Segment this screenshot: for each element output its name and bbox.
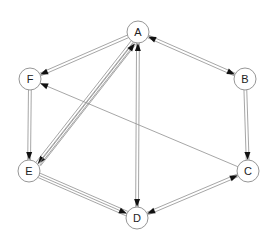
- edge-line: [39, 175, 127, 213]
- edge-f-e[interactable]: [26, 90, 32, 160]
- edge-a-b[interactable]: [148, 35, 236, 76]
- edge-line: [31, 90, 32, 160]
- graph-diagram: A B C D E F: [0, 0, 275, 240]
- arrowhead-end: [26, 152, 32, 160]
- arrowhead-start: [135, 43, 141, 51]
- edge-line: [244, 90, 246, 160]
- edge-e-d[interactable]: [38, 173, 128, 216]
- edge-b-c[interactable]: [244, 90, 250, 160]
- arrowhead-end: [134, 199, 140, 207]
- node-f-label: F: [27, 73, 34, 85]
- edge-line: [136, 43, 137, 207]
- node-a-label: A: [134, 26, 142, 38]
- edges-layer: [26, 35, 250, 216]
- edge-line: [40, 44, 135, 166]
- node-e-label: E: [25, 165, 32, 177]
- edge-line: [38, 43, 133, 165]
- edge-line: [138, 43, 139, 207]
- edge-line: [148, 38, 235, 76]
- node-b[interactable]: B: [234, 68, 256, 90]
- node-e[interactable]: E: [18, 160, 40, 182]
- node-d[interactable]: D: [126, 207, 148, 229]
- edge-line: [149, 35, 236, 73]
- edge-line: [38, 178, 126, 216]
- arrowhead-end: [40, 83, 49, 89]
- edge-line: [40, 44, 135, 166]
- edge-line: [28, 90, 29, 160]
- edge-line: [38, 42, 133, 164]
- node-f[interactable]: F: [19, 68, 41, 90]
- edge-c-d[interactable]: [147, 174, 239, 215]
- edge-a-f[interactable]: [40, 35, 129, 76]
- edge-line: [40, 173, 128, 211]
- node-a[interactable]: A: [127, 21, 149, 43]
- arrowhead-end: [244, 152, 250, 160]
- node-c-label: C: [244, 165, 252, 177]
- edge-line: [148, 177, 239, 215]
- node-d-label: D: [133, 212, 141, 224]
- edge-line: [147, 174, 238, 212]
- edge-line: [36, 41, 131, 163]
- node-c[interactable]: C: [237, 160, 259, 182]
- edge-line: [247, 90, 249, 160]
- node-b-label: B: [241, 73, 248, 85]
